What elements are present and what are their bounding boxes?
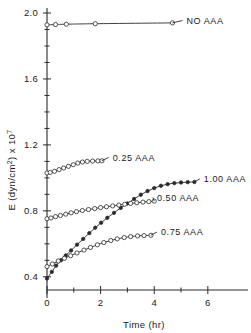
data-point-marker [111,204,115,208]
data-point-marker [53,22,57,26]
data-point-marker [96,159,100,163]
data-point-marker [66,164,70,168]
data-point-marker [159,184,162,187]
series-no-aaa [45,21,175,27]
data-point-marker [109,238,113,242]
x-tick-label: 4 [151,297,157,308]
data-point-marker [93,22,97,26]
data-point-marker [71,163,75,167]
x-axis-tick-labels: 0246 [44,297,210,308]
data-point-marker [58,213,62,217]
data-point-marker [122,235,126,239]
data-point-marker [94,226,97,229]
data-point-marker [45,264,49,268]
data-point-marker [136,234,140,238]
data-point-marker [88,245,92,249]
data-point-marker [85,159,89,163]
series-0-50-aaa [45,199,156,221]
data-point-marker [112,211,115,214]
x-tick-label: 6 [205,297,211,308]
data-point-marker [81,237,84,240]
data-point-marker [153,186,156,189]
data-point-marker [75,243,78,246]
data-point-marker [90,159,94,163]
data-point-marker [99,221,102,224]
data-point-marker [50,270,53,273]
chart-figure: 0.40.81.21.62.0 0246 NO AAA0.25 AAA1.00 … [0,0,251,333]
data-point-marker [45,277,48,280]
data-point-marker [93,206,97,210]
y-axis-title: E (dyn/cm2) x 107 [6,129,17,210]
data-point-marker [147,200,151,204]
y-axis-title-sup-7: 7 [6,129,13,133]
data-series-group [45,21,196,280]
series-0-25-aaa [45,159,104,175]
data-point-marker [115,237,119,241]
y-axis-title-lead: E (dyn/cm [6,164,17,210]
data-point-marker [166,182,169,185]
data-point-marker [45,217,49,221]
series-label-no-aaa: NO AAA [186,16,223,26]
y-axis: 0.40.81.21.62.0 [24,7,51,298]
y-axis-tick-labels: 0.40.81.21.62.0 [24,7,38,282]
y-tick-label: 0.4 [24,271,38,282]
data-point-marker [64,22,68,26]
data-point-marker [53,215,57,219]
series-label-0-75-aaa: 0.75 AAA [161,227,203,237]
data-point-marker [52,169,56,173]
x-tick-label: 0 [44,297,50,308]
x-tick-label: 2 [98,297,104,308]
series-0-75-aaa [45,233,153,269]
data-point-marker [86,207,90,211]
data-point-marker [123,202,127,206]
data-point-marker [69,249,72,252]
data-point-marker [135,201,139,205]
data-point-marker [62,166,66,170]
data-point-marker [56,259,60,263]
data-point-marker [179,181,182,184]
data-point-marker [68,254,72,258]
data-point-marker [80,160,84,164]
y-tick-label: 1.2 [24,139,38,150]
data-point-marker [99,205,103,209]
data-point-marker [45,23,49,27]
data-point-marker [50,262,54,266]
data-point-marker [95,243,99,247]
data-point-marker [141,200,145,204]
line-chart: 0.40.81.21.62.0 0246 NO AAA0.25 AAA1.00 … [0,0,251,333]
data-point-marker [104,205,108,209]
data-point-marker [48,170,52,174]
series-label-0-25-aaa: 0.25 AAA [113,153,155,163]
data-point-marker [69,211,73,215]
x-axis: 0246 [44,286,248,308]
y-tick-label: 2.0 [24,7,38,18]
data-point-marker [186,180,189,183]
data-point-marker [49,216,53,220]
series-line [47,235,151,266]
data-point-marker [80,208,84,212]
series-label-1-00-aaa: 1.00 AAA [204,174,246,184]
data-point-marker [82,248,86,252]
y-tick-label: 1.6 [24,73,38,84]
x-axis-title: Time (hr) [123,319,165,330]
data-point-marker [64,212,68,216]
data-point-marker [132,197,135,200]
data-point-marker [102,240,106,244]
y-tick-label: 0.8 [24,205,38,216]
data-point-marker [54,264,57,267]
data-point-marker [117,203,121,207]
data-point-marker [106,216,109,219]
data-point-marker [146,189,149,192]
data-point-marker [173,181,176,184]
data-point-marker [88,231,91,234]
data-point-marker [76,161,80,165]
data-point-marker [142,233,146,237]
data-point-marker [62,256,66,260]
series-label-0-50-aaa: 0.50 AAA [157,193,199,203]
data-point-marker [57,168,61,172]
svg-text:E (dyn/cm2) x 107: E (dyn/cm2) x 107 [6,129,17,210]
data-point-marker [75,251,79,255]
y-axis-title-mid: ) x 10 [6,134,17,160]
data-point-marker [129,234,133,238]
data-point-marker [74,210,78,214]
